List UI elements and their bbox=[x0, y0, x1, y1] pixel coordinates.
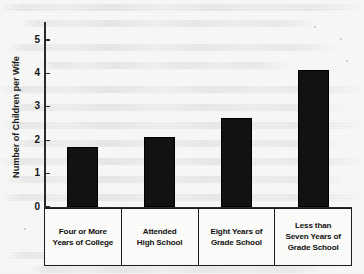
y-axis-title: Number of Children per Wife bbox=[11, 27, 21, 207]
chart-page: Number of Children per Wife 012345 Four … bbox=[0, 0, 364, 274]
category-label-line: Four or More bbox=[59, 227, 107, 237]
y-tick-mark bbox=[45, 140, 50, 141]
category-label-line: Years of College bbox=[53, 238, 114, 248]
y-tick-mark bbox=[45, 173, 50, 174]
y-tick-label: 0 bbox=[24, 201, 40, 212]
category-label-line: Eight Years of bbox=[211, 227, 263, 237]
bar bbox=[221, 118, 252, 207]
y-tick-label: 2 bbox=[24, 134, 40, 145]
category-label-line: Attended bbox=[143, 227, 177, 237]
category-label-cell: Less thanSeven Years ofGrade School bbox=[275, 209, 351, 265]
category-label-cell: Eight Years ofGrade School bbox=[199, 209, 276, 265]
bar bbox=[298, 70, 329, 207]
y-tick-mark bbox=[45, 73, 50, 74]
y-tick-label: 1 bbox=[24, 167, 40, 178]
y-tick-mark bbox=[45, 39, 50, 40]
category-label-line: Seven Years of bbox=[285, 232, 340, 242]
y-tick-label: 5 bbox=[24, 34, 40, 45]
y-axis-line bbox=[44, 22, 46, 208]
category-label-cell: AttendedHigh School bbox=[122, 209, 199, 265]
y-tick-label: 3 bbox=[24, 100, 40, 111]
y-tick-label: 4 bbox=[24, 67, 40, 78]
category-label-line: Grade School bbox=[288, 243, 339, 253]
bar bbox=[144, 137, 175, 207]
bar bbox=[67, 147, 98, 207]
category-label-line: High School bbox=[137, 238, 183, 248]
category-label-line: Grade School bbox=[211, 238, 262, 248]
category-label-table: Four or MoreYears of CollegeAttendedHigh… bbox=[44, 208, 352, 266]
y-tick-mark bbox=[45, 106, 50, 107]
category-label-line: Less than bbox=[295, 221, 331, 231]
category-label-cell: Four or MoreYears of College bbox=[45, 209, 122, 265]
